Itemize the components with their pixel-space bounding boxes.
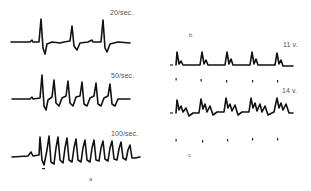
stimulus-marks-b — [176, 78, 279, 83]
trace-20-per-sec — [11, 19, 130, 54]
trace-14v — [176, 98, 293, 116]
rate-label-20: 20/sec. — [110, 9, 133, 16]
panel-label-a: a — [89, 176, 92, 182]
voltage-label-14v: 14 v. — [282, 87, 297, 94]
stimulus-marks-c — [176, 138, 279, 143]
trace-11v — [176, 52, 293, 66]
voltage-label-11v: 11 v. — [283, 41, 298, 48]
panel-label-c: c — [188, 152, 191, 158]
trace-50-per-sec — [12, 75, 130, 110]
stimulus-mark — [42, 168, 45, 169]
trace-graphics — [0, 0, 311, 191]
panel-label-b: b — [189, 32, 192, 38]
rate-label-100: 100/sec. — [111, 130, 138, 137]
rate-label-50: 50/sec. — [111, 72, 134, 79]
trace-100-per-sec — [12, 136, 140, 165]
